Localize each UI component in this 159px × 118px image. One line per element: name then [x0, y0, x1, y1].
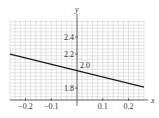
x-tick-label: 0.1	[98, 102, 108, 111]
x-tick-label: −0.2	[18, 102, 33, 111]
x-axis-label: x	[150, 96, 155, 105]
y-tick-label: 2.2	[64, 50, 74, 59]
y-axis-label: y	[74, 5, 79, 14]
x-tick-label: −0.1	[44, 102, 59, 111]
annotation-label: 2.0	[80, 61, 90, 70]
x-tick-label: 0.2	[124, 102, 134, 111]
y-tick-label: 2.4	[64, 33, 74, 42]
y-tick-label: 1.8	[64, 84, 74, 93]
tick-labels: −0.2−0.10.10.21.82.22.42.0	[18, 33, 133, 111]
line-chart: −0.2−0.10.10.21.82.22.42.0 x y	[0, 0, 159, 118]
